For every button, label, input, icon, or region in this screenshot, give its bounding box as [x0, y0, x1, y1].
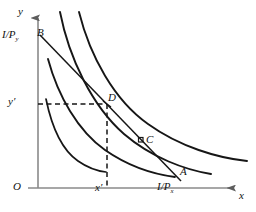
axes-group: [28, 18, 234, 188]
origin-label: O: [13, 181, 21, 192]
indifference-curve-1: [46, 99, 106, 172]
x-intercept-label-subscript: x: [170, 187, 173, 194]
x-axis-label: x: [239, 190, 244, 201]
point-b-label: B: [37, 27, 44, 38]
x-intercept-label-main: I/P: [157, 180, 170, 192]
indifference-curve-3: [60, 12, 211, 174]
point-c-label: C: [146, 134, 153, 145]
budget-line-group: [40, 35, 181, 181]
y-prime-label: y′: [8, 96, 15, 107]
indifference-curves-group: [46, 12, 247, 177]
y-intercept-label: I/Py: [2, 29, 18, 43]
point-a-label: A: [180, 166, 187, 177]
y-axis-label: y: [18, 6, 23, 17]
point-d-label: D: [108, 92, 116, 103]
budget-line: [40, 35, 181, 181]
indifference-curve-4: [79, 12, 247, 161]
y-intercept-label-main: I/P: [2, 28, 15, 40]
x-prime-label: x′: [95, 182, 102, 193]
indifference-curve-2: [48, 59, 175, 177]
y-intercept-label-subscript: y: [15, 35, 18, 42]
x-intercept-label: I/Px: [157, 181, 173, 195]
indifference-curve-figure: y x O I/Py I/Px B A C D y′ x′: [0, 0, 256, 212]
